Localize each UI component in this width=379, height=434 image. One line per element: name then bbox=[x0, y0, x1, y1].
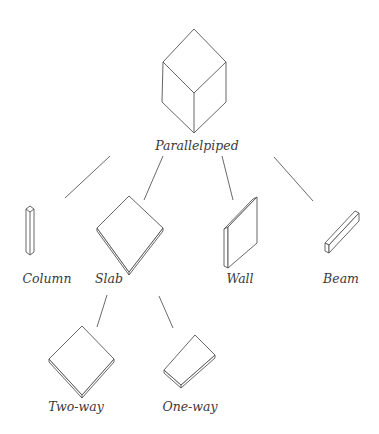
edge-root-beam bbox=[274, 157, 313, 201]
two-way-label: Two-way bbox=[48, 399, 104, 414]
two-way-slab-icon bbox=[49, 326, 114, 398]
beam-bar-icon bbox=[325, 211, 359, 253]
one-way-slab-icon bbox=[164, 335, 215, 388]
column-label: Column bbox=[22, 271, 71, 286]
column-prism-icon bbox=[26, 206, 34, 255]
wall-label: Wall bbox=[226, 271, 253, 286]
beam-label: Beam bbox=[322, 271, 359, 286]
wall-panel-icon bbox=[224, 197, 257, 268]
slab-label: Slab bbox=[95, 271, 123, 286]
root-label: Parallelpiped bbox=[154, 138, 239, 153]
edge-root-slab bbox=[144, 156, 163, 200]
parallelepiped-cube-icon bbox=[162, 29, 226, 133]
edge-root-wall bbox=[222, 156, 233, 200]
slab-plate-icon bbox=[97, 196, 163, 275]
edge-slab-two-way bbox=[97, 295, 107, 327]
structural-element-diagram: Parallelpiped Column Slab Wall Beam Two bbox=[0, 0, 379, 434]
edge-root-column bbox=[65, 156, 110, 198]
edge-slab-one-way bbox=[159, 296, 173, 328]
one-way-label: One-way bbox=[162, 399, 218, 414]
